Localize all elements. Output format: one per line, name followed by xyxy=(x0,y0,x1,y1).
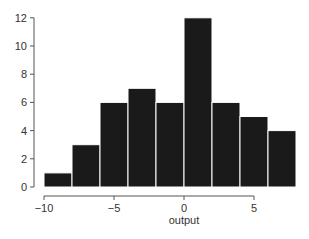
y-tick-label: 8 xyxy=(21,68,27,80)
histogram-bar xyxy=(240,117,268,188)
x-axis-label: output xyxy=(169,214,200,226)
histogram-bar xyxy=(212,102,240,187)
histogram-bar xyxy=(72,145,100,187)
histogram-bar xyxy=(44,173,72,187)
histogram-bar xyxy=(184,18,212,187)
x-tick-label: −10 xyxy=(35,202,54,214)
y-tick-label: 12 xyxy=(15,12,27,24)
x-tick-label: 0 xyxy=(181,202,187,214)
y-tick-label: 4 xyxy=(21,125,27,137)
histogram-bar xyxy=(156,102,184,187)
histogram-chart: 024681012 −10−505 output xyxy=(0,0,309,239)
y-tick-label: 2 xyxy=(21,153,27,165)
y-tick-label: 6 xyxy=(21,96,27,108)
x-tick-label: −5 xyxy=(108,202,121,214)
histogram-bars xyxy=(44,18,296,187)
x-tick-label: 5 xyxy=(251,202,257,214)
y-axis: 024681012 xyxy=(15,12,34,193)
y-tick-label: 0 xyxy=(21,181,27,193)
histogram-bar xyxy=(268,131,296,187)
histogram-bar xyxy=(100,102,128,187)
histogram-bar xyxy=(128,88,156,187)
y-tick-label: 10 xyxy=(15,40,27,52)
x-axis: −10−505 xyxy=(35,196,257,214)
